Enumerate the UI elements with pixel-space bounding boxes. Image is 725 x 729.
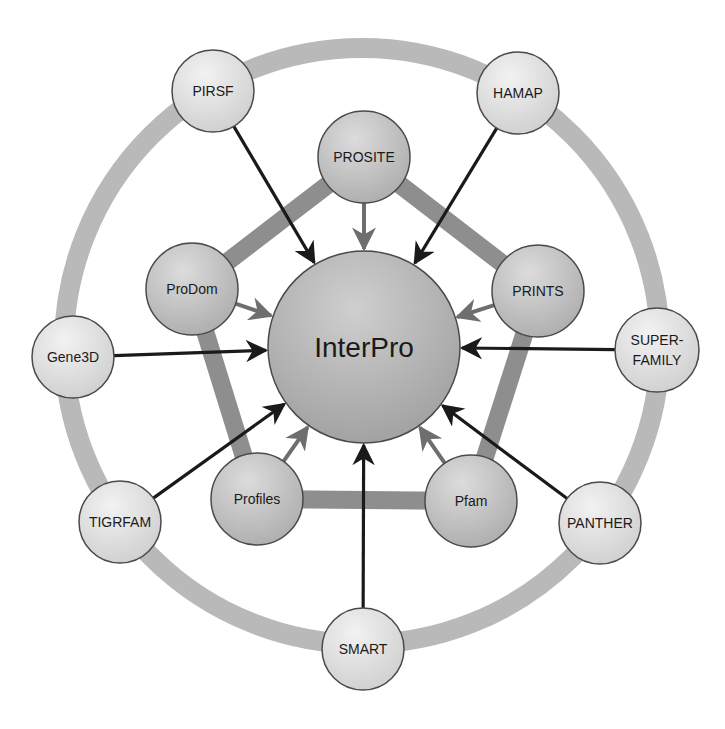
node-label: TIGRFAM: [89, 514, 151, 530]
node-pfam[interactable]: Pfam: [425, 455, 517, 547]
outer-node-circle: [615, 308, 699, 392]
node-label: Profiles: [234, 491, 281, 507]
node-label: PRINTS: [512, 283, 563, 299]
node-label: SUPER-: [631, 332, 684, 348]
node-label: ProDom: [166, 281, 217, 297]
node-prodom[interactable]: ProDom: [146, 243, 238, 335]
arrow-prints-to-interpro: [457, 305, 494, 317]
arrow-superfamily-to-interpro: [462, 348, 615, 350]
node-label: FAMILY: [633, 352, 682, 368]
node-prints[interactable]: PRINTS: [492, 245, 584, 337]
node-prosite[interactable]: PROSITE: [318, 111, 410, 203]
node-label: Pfam: [455, 493, 488, 509]
node-hamap[interactable]: HAMAP: [477, 52, 559, 134]
node-pirsf[interactable]: PIRSF: [172, 50, 254, 132]
node-smart[interactable]: SMART: [322, 608, 404, 690]
node-label: PANTHER: [567, 515, 633, 531]
node-label: InterPro: [314, 332, 414, 363]
node-tigrfam[interactable]: TIGRFAM: [79, 481, 161, 563]
node-label: PROSITE: [333, 149, 394, 165]
interpro-member-database-diagram: PIRSFHAMAPSUPER-FAMILYPANTHERSMARTTIGRFA…: [0, 0, 725, 729]
arrow-pfam-to-interpro: [420, 427, 445, 463]
node-label: PIRSF: [192, 83, 233, 99]
node-profiles[interactable]: Profiles: [211, 453, 303, 545]
node-superfamily[interactable]: SUPER-FAMILY: [615, 308, 699, 392]
arrow-gene3d-to-interpro: [114, 350, 266, 355]
arrow-prodom-to-interpro: [236, 304, 272, 316]
node-label: HAMAP: [493, 85, 543, 101]
node-panther[interactable]: PANTHER: [559, 482, 641, 564]
node-label: SMART: [339, 641, 388, 657]
node-label: Gene3D: [47, 349, 99, 365]
arrow-profiles-to-interpro: [283, 427, 307, 461]
arrow-smart-to-interpro: [363, 445, 364, 608]
node-interpro[interactable]: InterPro: [268, 251, 460, 443]
node-gene3d[interactable]: Gene3D: [32, 316, 114, 398]
